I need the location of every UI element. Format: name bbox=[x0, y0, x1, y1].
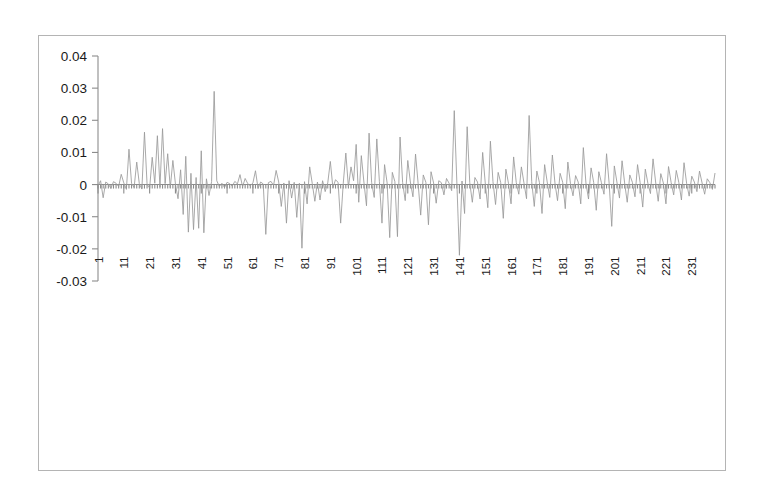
y-tick-label: -0.03 bbox=[56, 274, 87, 289]
x-tick-label: 121 bbox=[402, 257, 414, 276]
chart-figure: 0.040.030.020.010-0.01-0.02-0.0311121314… bbox=[38, 35, 726, 471]
x-tick-label: 1 bbox=[93, 257, 105, 263]
x-tick-label: 61 bbox=[247, 257, 259, 270]
x-tick-label: 41 bbox=[196, 257, 208, 270]
x-tick-label: 111 bbox=[376, 257, 388, 274]
x-tick-label: 131 bbox=[428, 257, 440, 276]
line-chart-svg: 0.040.030.020.010-0.01-0.02-0.0311121314… bbox=[39, 36, 725, 470]
x-tick-label: 51 bbox=[222, 257, 234, 270]
y-tick-label: 0.01 bbox=[61, 145, 87, 160]
x-tick-label: 231 bbox=[686, 257, 698, 276]
plot-area: 0.040.030.020.010-0.01-0.02-0.0311121314… bbox=[39, 36, 725, 470]
x-tick-label: 181 bbox=[557, 257, 569, 276]
y-tick-label: -0.02 bbox=[56, 242, 87, 257]
y-tick-label: 0.02 bbox=[61, 113, 87, 128]
data-series-line bbox=[98, 91, 715, 255]
x-tick-label: 201 bbox=[609, 257, 621, 276]
x-tick-label: 171 bbox=[531, 257, 543, 276]
x-tick-label: 21 bbox=[144, 257, 156, 270]
y-tick-label: 0 bbox=[79, 178, 87, 193]
x-tick-label: 11 bbox=[118, 257, 130, 269]
x-tick-label: 101 bbox=[351, 257, 363, 276]
y-tick-label: 0.04 bbox=[61, 49, 88, 64]
x-tick-label: 91 bbox=[325, 257, 337, 270]
y-tick-label: 0.03 bbox=[61, 81, 87, 96]
x-tick-label: 191 bbox=[583, 257, 595, 276]
x-tick-label: 221 bbox=[660, 257, 672, 276]
y-tick-label: -0.01 bbox=[56, 210, 87, 225]
x-tick-label: 81 bbox=[299, 257, 311, 270]
x-tick-label: 31 bbox=[170, 257, 182, 270]
x-tick-label: 71 bbox=[273, 257, 285, 270]
x-tick-label: 151 bbox=[480, 257, 492, 276]
x-tick-label: 161 bbox=[506, 257, 518, 276]
x-tick-label: 211 bbox=[635, 257, 647, 275]
x-tick-label: 141 bbox=[454, 257, 466, 276]
